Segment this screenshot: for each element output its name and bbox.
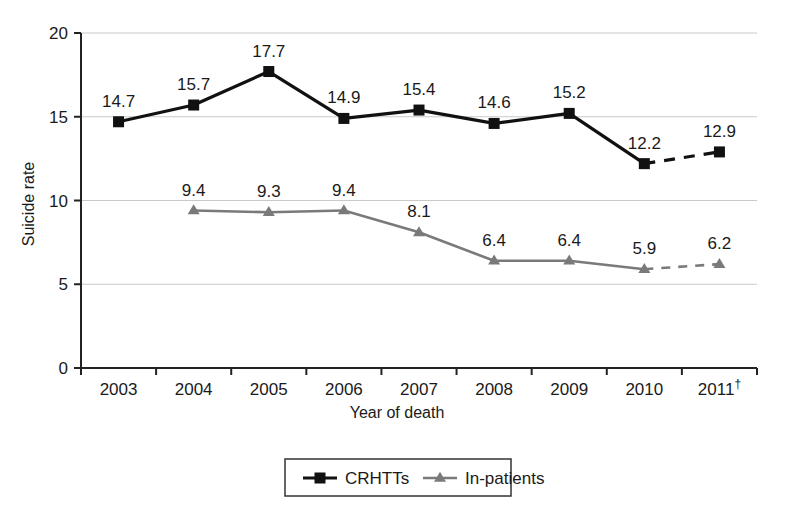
data-point-marker xyxy=(564,108,575,119)
data-point-marker xyxy=(414,105,425,116)
chart-figure: 05101520 2003200420052006200720082009201… xyxy=(0,0,796,514)
data-label: 14.6 xyxy=(478,93,511,112)
data-label: 9.3 xyxy=(257,182,281,201)
y-tick-label: 20 xyxy=(49,24,68,43)
data-point-marker xyxy=(714,146,725,157)
data-label: 17.7 xyxy=(252,42,285,61)
data-label: 6.4 xyxy=(557,231,581,250)
chart-background xyxy=(0,0,796,514)
data-label: 6.4 xyxy=(482,231,506,250)
data-point-marker xyxy=(489,118,500,129)
data-label: 15.7 xyxy=(177,75,210,94)
data-label: 12.9 xyxy=(703,122,736,141)
data-label: 9.4 xyxy=(332,181,356,200)
x-tick-label: 2006 xyxy=(325,380,363,399)
suicide-rate-line-chart: 05101520 2003200420052006200720082009201… xyxy=(0,0,796,514)
y-tick-label: 10 xyxy=(49,192,68,211)
data-point-marker xyxy=(188,100,199,111)
x-tick-label: 2008 xyxy=(475,380,513,399)
data-label: 15.2 xyxy=(553,83,586,102)
data-point-marker xyxy=(113,116,124,127)
x-tick-label: 2009 xyxy=(550,380,588,399)
data-label: 8.1 xyxy=(407,202,431,221)
data-label: 12.2 xyxy=(628,134,661,153)
data-label: 15.4 xyxy=(402,80,435,99)
x-tick-label: 2003 xyxy=(100,380,138,399)
x-tick-label: 2004 xyxy=(175,380,213,399)
data-point-marker xyxy=(639,158,650,169)
y-tick-label: 15 xyxy=(49,108,68,127)
x-tick-label: 2007 xyxy=(400,380,438,399)
series-segment xyxy=(194,211,269,213)
y-tick-label: 5 xyxy=(59,275,68,294)
data-point-marker xyxy=(315,473,326,484)
data-label: 14.9 xyxy=(327,88,360,107)
series-segment xyxy=(269,211,344,213)
legend-label: In-patients xyxy=(465,469,544,488)
y-axis-title: Suicide rate xyxy=(20,162,37,247)
legend-label: CRHTTs xyxy=(345,469,409,488)
data-label: 6.2 xyxy=(708,234,732,253)
data-point-marker xyxy=(338,113,349,124)
chart-legend: CRHTTsIn-patients xyxy=(285,459,544,496)
data-label: 9.4 xyxy=(182,181,206,200)
x-tick-label: 2010 xyxy=(625,380,663,399)
x-axis-title: Year of death xyxy=(350,404,445,421)
data-label: 5.9 xyxy=(633,239,657,258)
x-tick-label: 2005 xyxy=(250,380,288,399)
data-point-marker xyxy=(263,66,274,77)
y-tick-label: 0 xyxy=(59,359,68,378)
data-label: 14.7 xyxy=(102,92,135,111)
